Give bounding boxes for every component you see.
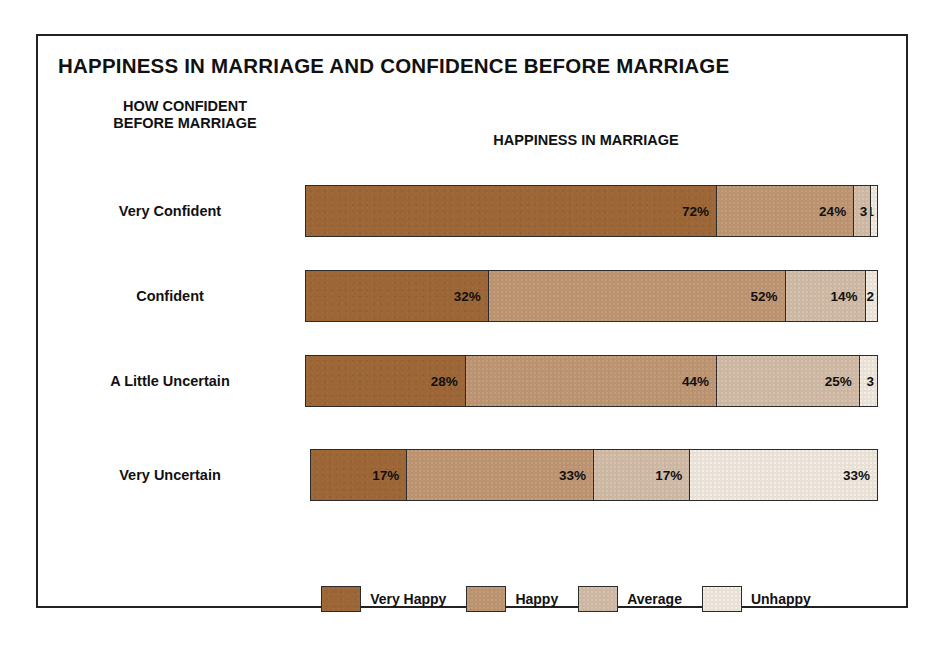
bar-segment-average[interactable]: 14% bbox=[786, 271, 866, 321]
bar-segment-very-happy[interactable]: 72% bbox=[306, 186, 717, 236]
bar-segment-average[interactable]: 17% bbox=[594, 450, 690, 500]
segment-value: 32% bbox=[454, 289, 488, 304]
bar-segment-very-happy[interactable]: 17% bbox=[311, 450, 407, 500]
bar-segment-very-happy[interactable]: 32% bbox=[306, 271, 489, 321]
segment-value: 1 bbox=[871, 204, 877, 219]
chart-frame: HAPPINESS IN MARRIAGE AND CONFIDENCE BEF… bbox=[36, 34, 908, 608]
stacked-bar[interactable]: 17% 33% 17% 33% bbox=[310, 449, 878, 501]
bar-segment-happy[interactable]: 44% bbox=[466, 356, 717, 406]
legend-item-unhappy[interactable]: Unhappy bbox=[702, 586, 811, 612]
segment-value: 3 bbox=[866, 374, 877, 389]
bar-segment-average[interactable]: 25% bbox=[717, 356, 860, 406]
legend-label: Average bbox=[627, 591, 682, 607]
row-label: Very Uncertain bbox=[54, 449, 286, 501]
bar-segment-average[interactable]: 3 bbox=[854, 186, 871, 236]
bar-segment-unhappy[interactable]: 33% bbox=[690, 450, 877, 500]
segment-value: 17% bbox=[655, 468, 689, 483]
legend-swatch-average bbox=[578, 586, 618, 612]
legend-item-happy[interactable]: Happy bbox=[466, 586, 558, 612]
bar-segment-happy[interactable]: 24% bbox=[717, 186, 854, 236]
segment-value: 33% bbox=[843, 468, 877, 483]
segment-value: 72% bbox=[682, 204, 716, 219]
segment-value: 17% bbox=[372, 468, 406, 483]
bar-segment-unhappy[interactable]: 3 bbox=[860, 356, 877, 406]
segment-value: 24% bbox=[819, 204, 853, 219]
bar-row: A Little Uncertain 28% 44% 25% 3 bbox=[38, 355, 906, 407]
segment-value: 28% bbox=[431, 374, 465, 389]
stacked-bar[interactable]: 72% 24% 3 1 bbox=[305, 185, 878, 237]
segment-value: 14% bbox=[831, 289, 865, 304]
bar-segment-happy[interactable]: 33% bbox=[407, 450, 594, 500]
row-label: Confident bbox=[54, 270, 286, 322]
legend-swatch-happy bbox=[466, 586, 506, 612]
segment-value: 33% bbox=[559, 468, 593, 483]
bar-segment-happy[interactable]: 52% bbox=[489, 271, 786, 321]
row-label: Very Confident bbox=[54, 185, 286, 237]
stacked-bar[interactable]: 28% 44% 25% 3 bbox=[305, 355, 878, 407]
legend-item-very-happy[interactable]: Very Happy bbox=[321, 586, 446, 612]
bar-rows: Very Confident 72% 24% 3 1 bbox=[38, 36, 906, 606]
segment-value: 25% bbox=[825, 374, 859, 389]
chart-canvas: HAPPINESS IN MARRIAGE AND CONFIDENCE BEF… bbox=[0, 0, 946, 648]
legend-item-average[interactable]: Average bbox=[578, 586, 682, 612]
bar-segment-very-happy[interactable]: 28% bbox=[306, 356, 466, 406]
segment-value: 44% bbox=[682, 374, 716, 389]
bar-row: Confident 32% 52% 14% 2 bbox=[38, 270, 906, 322]
bar-row: Very Uncertain 17% 33% 17% 33% bbox=[38, 449, 906, 501]
legend-label: Unhappy bbox=[751, 591, 811, 607]
legend-swatch-very-happy bbox=[321, 586, 361, 612]
legend-swatch-unhappy bbox=[702, 586, 742, 612]
bar-segment-unhappy[interactable]: 2 bbox=[866, 271, 877, 321]
legend-label: Happy bbox=[515, 591, 558, 607]
bar-row: Very Confident 72% 24% 3 1 bbox=[38, 185, 906, 237]
row-label: A Little Uncertain bbox=[54, 355, 286, 407]
legend-label: Very Happy bbox=[370, 591, 446, 607]
segment-value: 2 bbox=[866, 289, 877, 304]
segment-value: 52% bbox=[751, 289, 785, 304]
segment-value: 3 bbox=[860, 204, 871, 219]
bar-segment-unhappy[interactable]: 1 bbox=[871, 186, 877, 236]
chart-legend: Very Happy Happy Average Unhappy bbox=[306, 582, 826, 616]
stacked-bar[interactable]: 32% 52% 14% 2 bbox=[305, 270, 878, 322]
